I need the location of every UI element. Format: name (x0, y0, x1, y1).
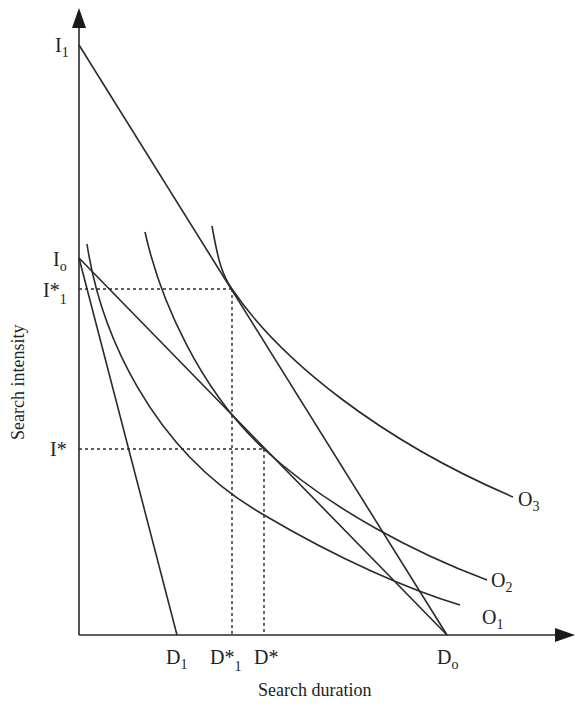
x-axis-arrow-icon (555, 628, 575, 642)
label-d-star-1: D*1 (210, 646, 241, 674)
curve-o3 (212, 226, 513, 497)
label-i-star: I* (50, 438, 67, 460)
label-o2: O2 (491, 569, 512, 595)
label-o3: O3 (518, 488, 539, 514)
label-do: Do (437, 646, 458, 672)
x-axis-title: Search duration (258, 680, 371, 700)
label-d-star: D* (254, 646, 278, 668)
budget-line-i1-do (79, 45, 447, 635)
label-i1: I1 (55, 34, 69, 60)
budget-line-io-d1 (79, 258, 177, 635)
label-o1: O1 (482, 606, 503, 632)
y-axis-title: Search intensity (8, 325, 28, 440)
curve-o1 (87, 244, 460, 605)
search-diagram: I1 Io I*1 I* D1 D*1 D* Do O3 O2 O1 Searc… (0, 0, 588, 712)
curve-o2 (145, 232, 487, 580)
label-d1: D1 (166, 646, 187, 672)
y-axis-arrow-icon (72, 8, 86, 28)
budget-line-io-do (79, 258, 447, 635)
label-io: Io (53, 248, 67, 274)
label-i-star-1: I*1 (43, 279, 67, 307)
